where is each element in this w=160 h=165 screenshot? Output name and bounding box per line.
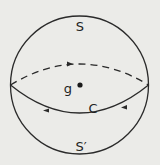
equator-front-solid bbox=[11, 85, 149, 113]
arrow-left-icon bbox=[43, 109, 49, 113]
arrow-left-icon bbox=[121, 105, 127, 110]
arrow-right-icon bbox=[67, 62, 73, 67]
label-s-prime: S′ bbox=[75, 139, 86, 154]
center-point bbox=[77, 82, 82, 87]
sphere-diagram: S g C S′ bbox=[0, 0, 160, 165]
label-g: g bbox=[64, 81, 72, 96]
label-c: C bbox=[88, 101, 97, 116]
label-s: S bbox=[76, 19, 84, 34]
equator-back-dashed bbox=[11, 64, 149, 85]
